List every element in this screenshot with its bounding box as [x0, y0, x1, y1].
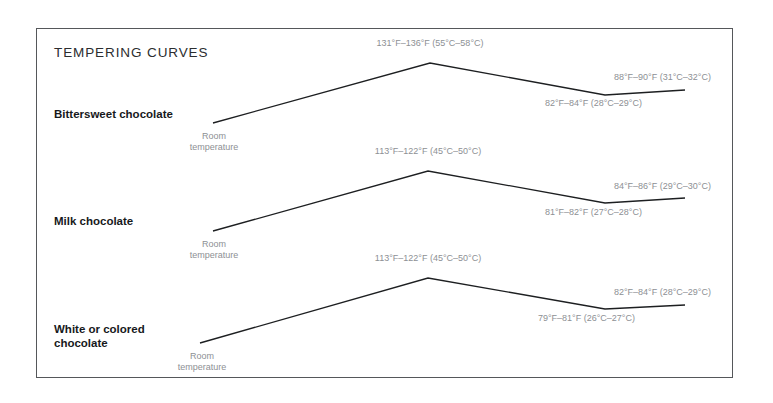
trough-temperature-label-milk: 81°F–82°F (27°C–28°C): [545, 207, 642, 217]
room-temperature-label-white: Room temperature: [164, 351, 240, 373]
working-temperature-label-milk: 84°F–86°F (29°C–30°C): [614, 181, 711, 191]
series-label-bittersweet-chocolate: Bittersweet chocolate: [54, 107, 173, 121]
series-label-white-or-colored-chocolate: White or colored chocolate: [54, 322, 145, 350]
peak-temperature-label-milk: 113°F–122°F (45°C–50°C): [375, 146, 481, 156]
room-temperature-label-milk: Room temperature: [176, 239, 252, 261]
working-temperature-label-bittersweet: 88°F–90°F (31°C–32°C): [614, 72, 711, 82]
trough-temperature-label-bittersweet: 82°F–84°F (28°C–29°C): [545, 98, 642, 108]
peak-temperature-label-white: 113°F–122°F (45°C–50°C): [375, 253, 481, 263]
working-temperature-label-white: 82°F–84°F (28°C–29°C): [614, 287, 711, 297]
series-label-milk-chocolate: Milk chocolate: [54, 214, 133, 228]
room-temperature-label-bittersweet: Room temperature: [176, 131, 252, 153]
trough-temperature-label-white: 79°F–81°F (26°C–27°C): [538, 313, 635, 323]
page-title: TEMPERING CURVES: [54, 45, 208, 60]
peak-temperature-label-bittersweet: 131°F–136°F (55°C–58°C): [377, 38, 484, 48]
